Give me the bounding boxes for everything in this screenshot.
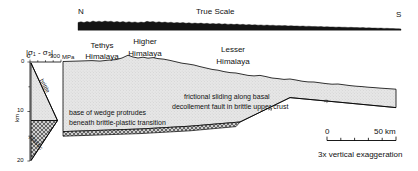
unit-label-higher-line2: Himalaya [122,49,168,58]
strength-y-axis-label: km [14,114,21,122]
strength-x-unit: MPa [62,54,74,61]
true-scale-label: True Scale [196,7,234,16]
scale-bar-start-label: 0 [325,127,329,136]
scale-bar [327,137,396,141]
annotation-decollement-line2: decollement fault in brittle upper crust [172,103,288,111]
vertical-exaggeration-note: 3x vertical exaggeration [318,150,403,159]
strength-y-tick-20: 20 [17,157,24,164]
strength-x-tick-300: 300 [50,53,60,60]
true-scale-profile [78,21,401,30]
scale-bar-ticks [327,137,396,141]
unit-label-lesser-line1: Lesser [210,45,256,54]
annotation-decollement-line1: frictional sliding along basal [184,93,270,101]
strength-envelope-plot [27,60,61,161]
annotation-wedge-base-line1: base of wedge protrudes [69,109,146,117]
direction-label-north: N [78,7,84,16]
strength-y-tick-0: 0 [21,58,24,65]
unit-label-tethys-line2: Himalaya [79,52,125,61]
scale-bar-end-label: 50 km [374,127,396,136]
strength-y-tick-10: 10 [17,107,24,114]
true-scale-profile-silhouette [78,21,401,30]
unit-label-higher-line1: Higher [122,37,168,46]
direction-label-south: S [396,10,401,19]
annotation-wedge-base-line2: beneath brittle-plastic transition [69,119,166,127]
cross-section-figure [0,0,418,171]
strength-x-tick-0: 0 [27,53,30,60]
unit-label-tethys-line1: Tethys [79,41,125,50]
unit-label-lesser-line2: Himalaya [210,57,256,66]
